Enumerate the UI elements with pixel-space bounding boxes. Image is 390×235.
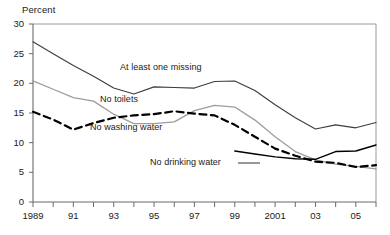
series-line-no-drinking-water — [235, 145, 376, 159]
annotation-no-drinking-water: No drinking water — [150, 157, 221, 167]
chart-container: Percent 051015202530 1989919395979920010… — [0, 0, 390, 235]
y-tick-label: 25 — [2, 48, 24, 59]
y-tick-label: 30 — [2, 18, 24, 29]
x-axis-ticks — [33, 202, 376, 207]
chart-plot-area — [0, 0, 390, 235]
x-tick-label: 97 — [189, 210, 200, 221]
y-tick-label: 20 — [2, 77, 24, 88]
series-lines — [33, 42, 376, 169]
x-tick-label: 1989 — [22, 210, 43, 221]
y-tick-label: 10 — [2, 137, 24, 148]
annotation-at-least-one-missing: At least one missing — [120, 62, 202, 72]
annotation-no-washing-water: No washing water — [90, 122, 162, 132]
x-tick-label: 99 — [229, 210, 240, 221]
x-tick-label: 93 — [108, 210, 119, 221]
y-tick-label: 15 — [2, 107, 24, 118]
x-tick-label: 2001 — [265, 210, 286, 221]
plot-frame — [33, 24, 376, 202]
y-axis-ticks — [29, 24, 33, 202]
y-tick-label: 5 — [2, 166, 24, 177]
x-tick-label: 03 — [310, 210, 321, 221]
x-tick-label: 91 — [68, 210, 79, 221]
x-tick-label: 95 — [149, 210, 160, 221]
y-tick-label: 0 — [2, 196, 24, 207]
series-line-at-least-one-missing — [33, 42, 376, 129]
annotation-no-toilets: No toilets — [100, 94, 138, 104]
x-tick-label: 05 — [351, 210, 362, 221]
